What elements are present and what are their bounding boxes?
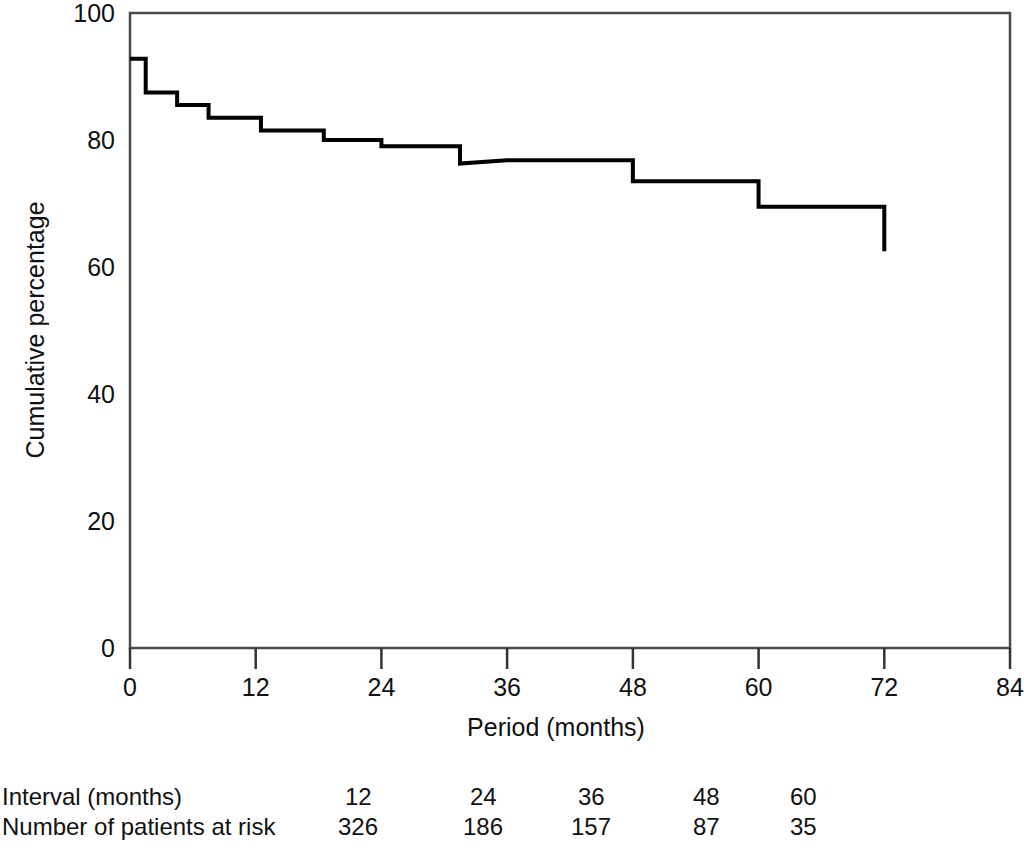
y-tick-label: 0: [101, 634, 115, 662]
y-axis-tick-labels: 0 20 40 60 80 100: [73, 0, 115, 662]
table-cell: 186: [463, 812, 503, 842]
table-cell: 35: [790, 812, 817, 842]
table-row: Interval (months) 12 24 36 48 60: [0, 782, 1024, 812]
table-cell: 48: [693, 782, 720, 812]
table-cell: 326: [338, 812, 378, 842]
y-tick-label: 60: [87, 253, 115, 281]
x-tick-label: 60: [745, 673, 773, 701]
table-row: Number of patients at risk 326 186 157 8…: [0, 812, 1024, 842]
x-tick-label: 24: [367, 673, 395, 701]
x-tick-label: 84: [996, 673, 1024, 701]
x-tick-label: 12: [242, 673, 270, 701]
y-tick-label: 20: [87, 507, 115, 535]
x-tick-label: 72: [870, 673, 898, 701]
table-cell: 157: [571, 812, 611, 842]
row-label: Interval (months): [2, 782, 182, 812]
x-tick-label: 0: [123, 673, 137, 701]
y-tick-label: 40: [87, 380, 115, 408]
kaplan-meier-figure: 0 12 24 36 48 60 72 84 Period (months) 0…: [0, 0, 1024, 867]
table-cell: 24: [470, 782, 497, 812]
table-cell: 60: [790, 782, 817, 812]
table-cell: 87: [693, 812, 720, 842]
x-tick-label: 36: [493, 673, 521, 701]
x-axis-title: Period (months): [467, 713, 645, 741]
table-cell: 36: [578, 782, 605, 812]
y-axis-title: Cumulative percentage: [21, 201, 49, 458]
number-at-risk-table: Interval (months) 12 24 36 48 60 Number …: [0, 782, 1024, 842]
plot-frame: [130, 13, 1010, 648]
y-tick-label: 80: [87, 126, 115, 154]
x-axis-tick-labels: 0 12 24 36 48 60 72 84: [123, 673, 1024, 701]
cumulative-percentage-chart: 0 12 24 36 48 60 72 84 Period (months) 0…: [0, 0, 1024, 782]
x-axis-ticks: [130, 648, 1010, 669]
y-tick-label: 100: [73, 0, 115, 27]
x-tick-label: 48: [619, 673, 647, 701]
table-cell: 12: [345, 782, 372, 812]
row-label: Number of patients at risk: [2, 812, 275, 842]
survival-step-curve: [130, 59, 884, 251]
